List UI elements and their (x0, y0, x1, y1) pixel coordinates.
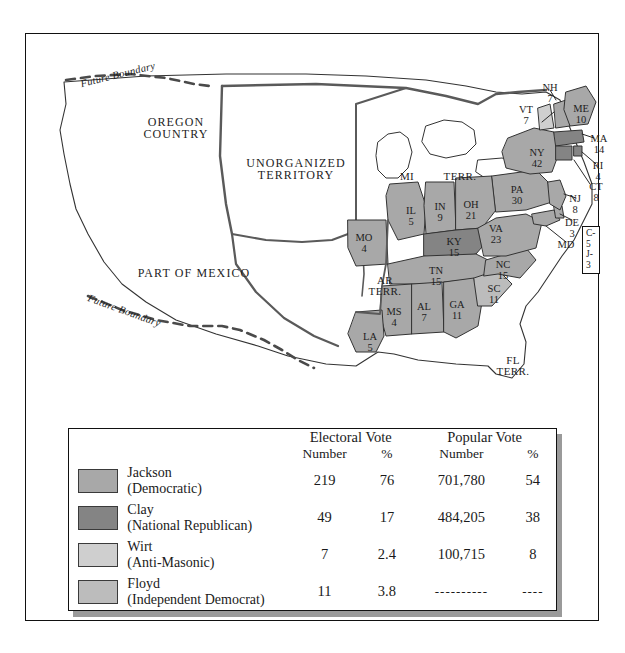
popular-percent-cell: 54 (510, 462, 556, 499)
results-table: Electoral Vote Popular Vote Number % Num… (69, 429, 556, 610)
table-row: Floyd(Independent Democrat)113.8--------… (69, 573, 556, 610)
header-spacer-candidate (127, 429, 288, 446)
popular-percent-cell: 38 (510, 499, 556, 536)
candidate-cell: Clay(National Republican) (127, 499, 288, 536)
header-electoral-percent: % (361, 446, 413, 462)
state-missouri (348, 220, 388, 266)
legend-panel: Electoral Vote Popular Vote Number % Num… (68, 428, 557, 611)
state-rhode-island (574, 146, 582, 156)
candidate-name: Floyd (127, 576, 160, 591)
electoral-number-cell: 11 (288, 573, 360, 610)
electoral-percent-cell: 17 (361, 499, 413, 536)
electoral-number-cell: 49 (288, 499, 360, 536)
legend-swatch-cell (69, 499, 127, 536)
legend-color-swatch (78, 580, 118, 604)
candidate-name: Wirt (127, 539, 152, 554)
electoral-map: OREGONCOUNTRY UNORGANIZEDTERRITORY PART … (26, 34, 598, 384)
candidate-party: (Democratic) (127, 481, 288, 497)
maryland-split-vote-box: C-5 J-3 (582, 226, 600, 274)
state-mississippi (380, 284, 412, 336)
candidate-party: (Anti-Masonic) (127, 555, 288, 571)
electoral-number-cell: 219 (288, 462, 360, 499)
candidate-party: (National Republican) (127, 518, 288, 534)
maryland-clay-votes: C-5 (586, 228, 596, 249)
table-row: Clay(National Republican)4917484,20538 (69, 499, 556, 536)
header-popular-percent: % (510, 446, 556, 462)
popular-percent-cell: ---- (510, 573, 556, 610)
legend-swatch-cell (69, 573, 127, 610)
header-spacer-swatch (69, 429, 127, 446)
legend-swatch-cell (69, 462, 127, 499)
header-electoral-vote: Electoral Vote (288, 429, 413, 446)
popular-number-cell: 100,715 (413, 536, 510, 573)
state-massachusetts (554, 130, 584, 146)
leader-line-2 (582, 134, 594, 138)
popular-number-cell: 701,780 (413, 462, 510, 499)
results-table-body: Jackson(Democratic)21976701,78054Clay(Na… (69, 462, 556, 610)
state-connecticut (556, 146, 572, 160)
candidate-cell: Jackson(Democratic) (127, 462, 288, 499)
table-row: Wirt(Anti-Masonic)72.4100,7158 (69, 536, 556, 573)
table-header-group-row: Electoral Vote Popular Vote (69, 429, 556, 446)
lake-huron-superior (422, 120, 476, 158)
state-maine (564, 86, 596, 126)
legend-color-swatch (78, 543, 118, 567)
popular-number-cell: ---------- (413, 573, 510, 610)
legend-color-swatch (78, 469, 118, 493)
figure-frame: OREGONCOUNTRY UNORGANIZEDTERRITORY PART … (25, 33, 599, 621)
header-electoral-number: Number (288, 446, 360, 462)
electoral-percent-cell: 2.4 (361, 536, 413, 573)
header-spacer-candidate-2 (127, 446, 288, 462)
popular-percent-cell: 8 (510, 536, 556, 573)
state-indiana (424, 182, 456, 234)
electoral-number-cell: 7 (288, 536, 360, 573)
popular-number-cell: 484,205 (413, 499, 510, 536)
candidate-party: (Independent Democrat) (127, 592, 288, 608)
state-alabama (412, 282, 444, 334)
table-row: Jackson(Democratic)21976701,78054 (69, 462, 556, 499)
candidate-name: Jackson (127, 465, 171, 480)
legend-color-swatch (78, 506, 118, 530)
candidate-name: Clay (127, 502, 153, 517)
header-spacer-swatch-2 (69, 446, 127, 462)
candidate-cell: Floyd(Independent Democrat) (127, 573, 288, 610)
table-header-sub-row: Number % Number % (69, 446, 556, 462)
map-geometry (26, 34, 597, 384)
candidate-cell: Wirt(Anti-Masonic) (127, 536, 288, 573)
legend-swatch-cell (69, 536, 127, 573)
header-popular-number: Number (413, 446, 510, 462)
header-popular-vote: Popular Vote (413, 429, 556, 446)
maryland-jackson-votes: J-3 (586, 249, 593, 270)
electoral-percent-cell: 3.8 (361, 573, 413, 610)
electoral-percent-cell: 76 (361, 462, 413, 499)
